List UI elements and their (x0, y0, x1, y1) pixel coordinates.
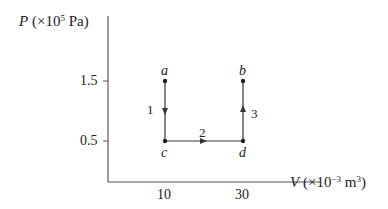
y-tick-label-1.5: 1.5 (80, 74, 98, 88)
x-axis-unit-suffix: ) (361, 174, 366, 190)
process-label-1: 1 (147, 103, 154, 116)
point-a (163, 79, 167, 83)
x-tick-label-10: 10 (157, 188, 171, 202)
point-label-a: a (161, 64, 168, 78)
x-axis-unit-mid: m (341, 174, 356, 190)
y-axis-symbol: P (19, 13, 28, 29)
x-tick-label-30: 30 (235, 188, 249, 202)
x-axis-unit-prefix: (×10 (303, 174, 331, 190)
y-tick-label-0.5: 0.5 (80, 134, 98, 148)
x-axis-label: V (×10−3 m3) (290, 175, 366, 190)
y-axis-unit-suffix: Pa) (65, 13, 89, 29)
point-label-b: b (239, 64, 246, 78)
point-label-d: d (239, 146, 246, 160)
arrow-up-icon (240, 105, 246, 112)
y-axis-label: P (×105 Pa) (19, 14, 89, 29)
process-label-3: 3 (251, 107, 258, 120)
point-c (163, 139, 167, 143)
arrow-down-icon (162, 108, 168, 115)
point-label-c: c (161, 146, 167, 160)
point-d (241, 139, 245, 143)
process-label-2: 2 (199, 126, 206, 139)
point-b (241, 79, 245, 83)
x-axis-symbol: V (290, 174, 299, 190)
x-axis-unit-exp: −3 (331, 174, 341, 184)
y-axis-unit-prefix: (×10 (32, 13, 60, 29)
